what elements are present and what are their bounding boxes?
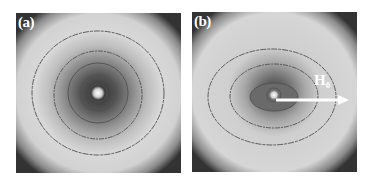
contour-plot-a xyxy=(16,13,181,173)
panel-label-b: (b) xyxy=(194,13,211,30)
panel-b: (b) H0 xyxy=(192,12,357,172)
panel-a: (a) xyxy=(16,13,181,173)
panel-label-a: (a) xyxy=(18,14,34,31)
contour-plot-b xyxy=(192,12,357,172)
arrow-label-subscript: 0 xyxy=(326,80,331,90)
field-arrow-label: H0 xyxy=(314,72,330,90)
arrow-label-symbol: H xyxy=(314,72,326,88)
